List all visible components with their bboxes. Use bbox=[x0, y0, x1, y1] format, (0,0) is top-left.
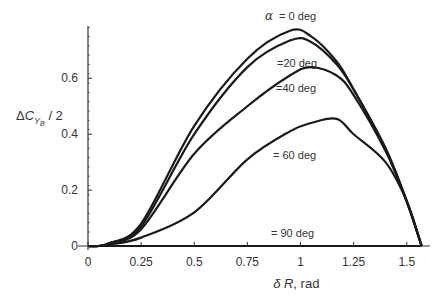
curve-alpha-40 bbox=[88, 67, 422, 246]
x-tick-label: 0.5 bbox=[186, 255, 203, 269]
curves bbox=[88, 29, 422, 246]
x-tick-label: 0.25 bbox=[129, 255, 153, 269]
y-tick-label: 0.6 bbox=[61, 71, 78, 85]
x-tick-label: 0.75 bbox=[236, 255, 260, 269]
x-tick-label: 1.25 bbox=[342, 255, 366, 269]
curve-label: =40 deg bbox=[276, 82, 316, 94]
curve-label: = 90 deg bbox=[271, 227, 314, 239]
curve-alpha-20 bbox=[88, 38, 422, 246]
x-tick-label: 1 bbox=[297, 255, 304, 269]
x-tick-label: 0 bbox=[85, 255, 92, 269]
x-tick-label: 1.5 bbox=[398, 255, 415, 269]
axes: 00.20.40.600.250.50.7511.251.5δ R, radΔC… bbox=[16, 26, 430, 291]
curve-label: = 60 deg bbox=[273, 149, 316, 161]
y-tick-label: 0 bbox=[71, 239, 78, 253]
y-tick-label: 0.4 bbox=[61, 127, 78, 141]
curve-label: =20 deg bbox=[277, 57, 317, 69]
x-axis-title: δ R, rad bbox=[273, 276, 319, 291]
chart: 00.20.40.600.250.50.7511.251.5δ R, radΔC… bbox=[0, 0, 448, 298]
y-tick-label: 0.2 bbox=[61, 183, 78, 197]
y-axis-title: ΔCYB / 2 bbox=[16, 108, 63, 127]
curve-label: α= 0 deg bbox=[265, 9, 316, 23]
